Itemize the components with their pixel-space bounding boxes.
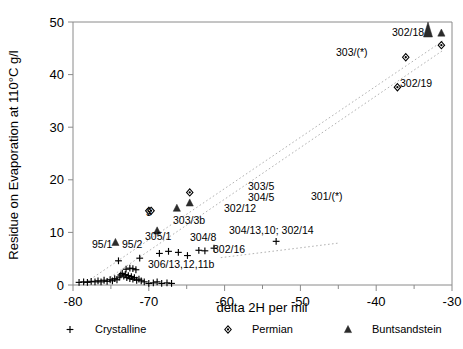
legend-label-permian: Permian [252, 323, 293, 335]
data-point-plus [195, 247, 202, 254]
y-tick-label: 20 [50, 172, 64, 187]
data-point-triangle [112, 238, 119, 245]
data-point-triangle-large [424, 22, 433, 37]
x-tick-label: -40 [367, 294, 386, 309]
data-point-plus [168, 280, 175, 287]
trend-line-lower-trend [100, 50, 443, 284]
x-tick-label: -30 [443, 294, 462, 309]
data-point-triangle [186, 199, 193, 206]
y-tick-label: 40 [50, 67, 64, 82]
point-label: 95/2 [122, 238, 143, 250]
data-point-plus [201, 247, 208, 254]
point-label: 302/19 [400, 77, 432, 89]
scatter-plot-svg: 01020304050 -80-70-60-50-40-30 302/18303… [0, 0, 463, 349]
point-label: 95/1 [92, 238, 113, 250]
y-tick-label: 50 [50, 15, 64, 30]
series-permian [146, 42, 445, 215]
data-point-plus [136, 255, 143, 262]
point-label: 301/(*) [311, 190, 343, 202]
data-point-triangle [173, 204, 180, 211]
point-label: 302/16 [213, 243, 245, 255]
data-point-plus [273, 238, 280, 245]
data-point-diamond [187, 189, 193, 196]
y-axis-title: Residue on Evaporation at 110°C g/l [6, 50, 21, 260]
legend-marker-diamond [225, 326, 231, 333]
point-annotations: 302/18303/(*)302/19303/5304/5302/12301/(… [92, 26, 432, 270]
data-point-plus [101, 277, 108, 284]
data-point-plus [95, 277, 102, 284]
data-point-plus [129, 265, 136, 272]
point-label: 302/12 [224, 202, 256, 214]
point-label: 305/1 [145, 230, 171, 242]
point-label: 304/8 [190, 231, 216, 243]
y-axis-ticks: 01020304050 [50, 15, 73, 293]
point-label: 304/13,10; 302/14 [229, 224, 314, 236]
legend-marker-plus [67, 326, 74, 333]
data-point-plus [165, 248, 172, 255]
point-label: 306/13,12,11b [148, 258, 215, 270]
point-label: 3 [146, 206, 152, 218]
data-point-diamond [438, 42, 444, 49]
x-tick-label: -70 [139, 294, 158, 309]
data-point-plus [154, 278, 161, 285]
point-label: 303/3b [173, 214, 205, 226]
series-buntsandstein [112, 29, 445, 245]
point-label: 303/(*) [336, 46, 368, 58]
data-point-plus [156, 250, 163, 257]
x-axis-title: delta 2H per mil [216, 300, 307, 315]
data-point-plus [175, 249, 182, 256]
y-tick-label: 0 [57, 278, 64, 293]
data-point-plus [133, 266, 140, 273]
y-tick-label: 30 [50, 120, 64, 135]
legend-label-crystalline: Crystalline [95, 323, 146, 335]
data-point-diamond [403, 54, 409, 61]
data-point-plus [98, 278, 105, 285]
legend-label-buntsandstein: Buntsandstein [372, 323, 442, 335]
data-point-plus [122, 271, 129, 278]
x-tick-label: -80 [64, 294, 83, 309]
y-tick-label: 10 [50, 225, 64, 240]
data-point-plus [123, 266, 130, 273]
data-point-plus [92, 278, 99, 285]
point-label: 302/18 [392, 26, 424, 38]
chart-figure: 01020304050 -80-70-60-50-40-30 302/18303… [0, 0, 463, 349]
legend: CrystallinePermianBuntsandstein [67, 323, 442, 335]
data-point-triangle [438, 29, 445, 36]
legend-marker-triangle [344, 326, 351, 333]
